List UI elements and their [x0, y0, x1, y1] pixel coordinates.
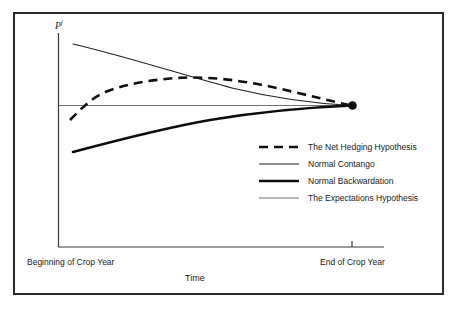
- legend-item-net-hedging-hypothesis: The Net Hedging Hypothesis: [258, 138, 438, 155]
- y-axis-label-superscript: f: [61, 19, 63, 26]
- legend-label-net-hedging-hypothesis: The Net Hedging Hypothesis: [308, 142, 417, 152]
- legend-label-expectations-hypothesis: The Expectations Hypothesis: [308, 193, 418, 203]
- figure-container: Pf Beginning of Crop Year End of Crop Ye…: [0, 0, 458, 310]
- legend-item-expectations-hypothesis: The Expectations Hypothesis: [258, 189, 438, 206]
- chart-legend: The Net Hedging Hypothesis Normal Contan…: [258, 138, 438, 206]
- legend-swatch-solid-hairline-icon: [258, 192, 300, 204]
- legend-item-normal-contango: Normal Contango: [258, 155, 438, 172]
- legend-swatch-solid-thin-icon: [258, 158, 300, 170]
- legend-swatch-solid-thick-icon: [258, 175, 300, 187]
- y-axis-label: Pf: [55, 20, 63, 32]
- legend-item-normal-backwardation: Normal Backwardation: [258, 172, 438, 189]
- legend-swatch-dashed-thick-icon: [258, 141, 300, 153]
- legend-label-normal-contango: Normal Contango: [308, 159, 375, 169]
- legend-label-normal-backwardation: Normal Backwardation: [308, 176, 394, 186]
- x-tick-label-end: End of Crop Year: [320, 258, 385, 267]
- x-axis-title: Time: [185, 274, 205, 283]
- x-tick-label-beginning: Beginning of Crop Year: [27, 258, 114, 267]
